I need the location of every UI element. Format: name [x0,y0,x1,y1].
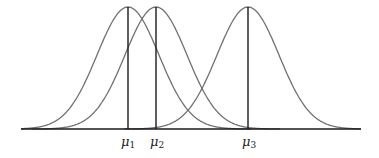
normal-curve-1 [21,7,252,129]
normal-curve-3 [124,7,361,129]
mu3-label: μ3 [242,134,256,150]
distribution-curves [21,7,361,129]
normal-curves-diagram: μ1 μ2 μ3 [0,0,379,158]
mu1-label: μ1 [121,134,135,150]
mu2-label: μ2 [150,134,164,150]
